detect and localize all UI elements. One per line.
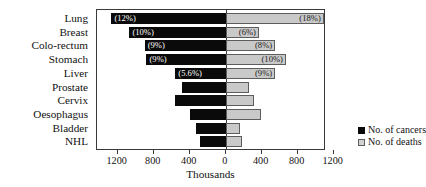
y-axis-label-bladder: Bladder bbox=[53, 122, 88, 135]
y-axis-label-lung: Lung bbox=[64, 12, 88, 25]
bar-deaths bbox=[226, 123, 240, 134]
bar-deaths bbox=[226, 136, 242, 147]
y-axis-label-liver: Liver bbox=[64, 67, 88, 80]
y-axis-label-oesophagus: Oesophagus bbox=[33, 108, 88, 121]
x-axis-tick bbox=[225, 150, 226, 154]
y-axis-label-prostate: Prostate bbox=[52, 81, 88, 94]
x-axis-tick bbox=[333, 150, 334, 154]
x-axis-tick-label: 1200 bbox=[107, 155, 127, 167]
bar-row bbox=[97, 123, 324, 136]
bar-row: (5.6%)(9%) bbox=[97, 68, 324, 81]
legend-item-deaths: No. of deaths bbox=[358, 136, 418, 148]
y-axis-category-labels: LungBreastColo-rectumStomachLiverProstat… bbox=[0, 11, 92, 150]
x-axis-tick-label: 0 bbox=[222, 155, 227, 167]
y-axis-label-nhl: NHL bbox=[65, 135, 88, 148]
chart-legend: No. of cancers No. of deaths bbox=[358, 124, 418, 148]
y-axis-label-stomach: Stomach bbox=[49, 53, 88, 66]
x-axis-tick-label: 1200 bbox=[322, 155, 342, 167]
bar-deaths-percent-label: (6%) bbox=[228, 27, 258, 38]
bar-cancers-percent-label: (12%) bbox=[112, 13, 137, 24]
bar-deaths bbox=[226, 95, 254, 106]
bar-row bbox=[97, 109, 324, 122]
bar-deaths bbox=[226, 82, 249, 93]
bar-row bbox=[97, 95, 324, 108]
bar-row: (9%)(8%) bbox=[97, 40, 324, 53]
legend-label-deaths: No. of deaths bbox=[368, 136, 422, 148]
x-axis-title: Thousands bbox=[96, 167, 325, 181]
bar-row bbox=[97, 82, 324, 95]
x-axis-tick bbox=[117, 150, 118, 154]
bar-deaths-percent-label: (8%) bbox=[244, 40, 274, 51]
y-axis-label-colo-rectum: Colo-rectum bbox=[31, 39, 88, 52]
x-axis-tick-label: 800 bbox=[145, 155, 160, 167]
bar-row: (9%)(10%) bbox=[97, 54, 324, 67]
bar-deaths-percent-label: (9%) bbox=[244, 68, 274, 79]
x-axis-tick-label: 800 bbox=[289, 155, 304, 167]
bar-row bbox=[97, 136, 324, 149]
legend-swatch-cancers-icon bbox=[358, 127, 365, 134]
legend-item-cancers: No. of cancers bbox=[358, 124, 418, 136]
bar-row: (12%)(18%) bbox=[97, 13, 324, 26]
bar-cancers-percent-label: (10%) bbox=[130, 27, 155, 38]
bar-cancers-percent-label: (5.6%) bbox=[176, 68, 204, 79]
bar-cancers bbox=[175, 95, 225, 106]
bar-cancers bbox=[182, 82, 225, 93]
x-axis-tick bbox=[189, 150, 190, 154]
bar-row: (10%)(6%) bbox=[97, 27, 324, 40]
x-axis-tick bbox=[297, 150, 298, 154]
x-axis-tick-label: 400 bbox=[253, 155, 268, 167]
bar-deaths-percent-label: (18%) bbox=[293, 13, 323, 24]
x-axis-tick bbox=[261, 150, 262, 154]
x-axis-tick bbox=[153, 150, 154, 154]
legend-swatch-deaths-icon bbox=[358, 139, 365, 146]
y-axis-label-breast: Breast bbox=[59, 26, 88, 39]
bar-deaths-percent-label: (10%) bbox=[255, 54, 285, 65]
bar-cancers-percent-label: (9%) bbox=[146, 40, 167, 51]
plot-area: (12%)(18%)(10%)(6%)(9%)(8%)(9%)(10%)(5.6… bbox=[96, 9, 325, 150]
bar-cancers bbox=[200, 136, 226, 147]
bar-cancers bbox=[196, 123, 226, 134]
bar-cancers bbox=[190, 109, 226, 120]
x-axis-tick-label: 400 bbox=[181, 155, 196, 167]
y-axis-label-cervix: Cervix bbox=[58, 94, 88, 107]
bar-deaths bbox=[226, 109, 261, 120]
legend-label-cancers: No. of cancers bbox=[368, 124, 426, 136]
bar-cancers-percent-label: (9%) bbox=[147, 54, 168, 65]
